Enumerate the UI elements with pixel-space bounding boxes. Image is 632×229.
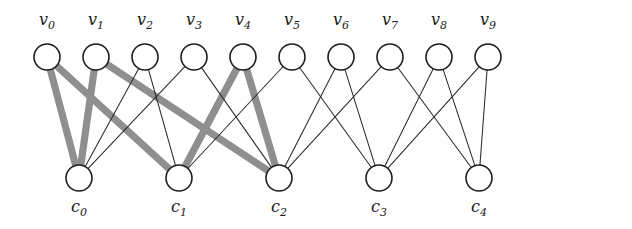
variable-node-label-v2: v2 (137, 10, 153, 32)
variable-node-label-v8: v8 (431, 10, 447, 32)
variable-node-label-v4: v4 (235, 10, 251, 32)
check-node-c0[interactable] (66, 165, 92, 191)
highlighted-edge-v4-c2 (247, 69, 276, 165)
variable-node-label-v6: v6 (333, 10, 349, 32)
tanner-graph-figure: v0v1v2v3v4v5v6v7v8v9c0c1c2c3c4 (0, 0, 632, 229)
variable-node-label-v5: v5 (284, 10, 300, 32)
check-node-c1[interactable] (166, 165, 192, 191)
highlighted-edge-v1-c0 (81, 70, 94, 165)
edge-v6-c2 (285, 69, 335, 167)
variable-node-v6[interactable] (328, 44, 354, 70)
variable-node-label-v0: v0 (39, 10, 55, 32)
variable-node-label-v3: v3 (186, 10, 202, 32)
variable-node-v7[interactable] (377, 44, 403, 70)
variable-node-v4[interactable] (230, 44, 256, 70)
graph-canvas: v0v1v2v3v4v5v6v7v8v9c0c1c2c3c4 (0, 0, 632, 229)
check-node-label-c0: c0 (71, 197, 87, 219)
variable-node-v3[interactable] (181, 44, 207, 70)
variable-node-v8[interactable] (426, 44, 452, 70)
variable-node-label-v7: v7 (382, 10, 398, 32)
check-node-c3[interactable] (366, 165, 392, 191)
variable-node-v5[interactable] (279, 44, 305, 70)
edges-layer (85, 66, 487, 168)
check-node-label-c2: c2 (271, 197, 287, 219)
variable-node-v0[interactable] (34, 44, 60, 70)
check-node-c4[interactable] (466, 165, 492, 191)
edge-v9-c4 (480, 70, 487, 165)
check-node-label-c1: c1 (171, 197, 187, 219)
variable-node-v1[interactable] (83, 44, 109, 70)
variable-node-v2[interactable] (132, 44, 158, 70)
check-node-label-c3: c3 (371, 197, 387, 219)
variable-node-v9[interactable] (475, 44, 501, 70)
variable-node-label-v9: v9 (480, 10, 496, 32)
highlighted-edges-layer (50, 64, 275, 171)
edge-v9-c3 (388, 67, 480, 169)
edge-v7-c2 (288, 67, 381, 169)
variable-node-label-v1: v1 (88, 10, 104, 32)
check-node-label-c4: c4 (471, 197, 487, 219)
check-node-c2[interactable] (266, 165, 292, 191)
